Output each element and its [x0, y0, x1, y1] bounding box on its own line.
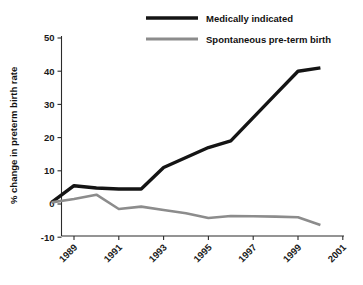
x-axis-ticks: 1989199119931995199719992001: [57, 236, 349, 264]
y-tick-label: -10: [41, 232, 55, 243]
x-tick-label: 1999: [281, 242, 304, 265]
y-tick-label: 40: [44, 66, 55, 77]
legend-label-1: Spontaneous pre-term birth: [206, 34, 331, 45]
chart-legend: Medically indicatedSpontaneous pre-term …: [146, 13, 331, 45]
series-group: [52, 68, 321, 225]
y-tick-label: 50: [44, 32, 55, 43]
legend-label-0: Medically indicated: [206, 13, 293, 24]
x-tick-label: 1993: [146, 242, 169, 265]
y-axis-title: % change in preterm birth rate: [8, 67, 19, 204]
x-tick-label: 1989: [57, 242, 80, 265]
x-tick-label: 1995: [191, 241, 214, 264]
x-tick-label: 2001: [325, 241, 348, 264]
y-tick-label: 20: [44, 132, 55, 143]
y-tick-label: 30: [44, 99, 55, 110]
series-line-spontaneous-preterm-birth: [52, 195, 321, 225]
series-line-medically-indicated: [52, 68, 321, 202]
x-tick-label: 1991: [101, 241, 124, 264]
line-chart-svg: % change in preterm birth rate 504030201…: [0, 0, 363, 285]
x-tick-label: 1997: [236, 242, 259, 265]
y-axis-ticks: 50403020100-10: [41, 32, 62, 242]
y-tick-label: 10: [44, 165, 55, 176]
chart-figure: % change in preterm birth rate 504030201…: [0, 0, 363, 285]
